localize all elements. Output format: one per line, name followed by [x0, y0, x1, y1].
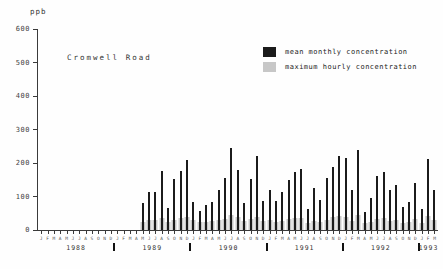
month-tick — [257, 230, 258, 234]
month-tick — [415, 230, 416, 234]
bar-mean-monthly — [402, 207, 404, 230]
bar-mean-monthly — [421, 209, 423, 230]
month-tick — [168, 230, 169, 234]
bar-mean-monthly — [205, 205, 207, 230]
bar-mean-monthly — [338, 156, 340, 230]
y-axis-tick — [33, 129, 38, 130]
month-tick — [174, 230, 175, 234]
month-tick — [244, 230, 245, 234]
month-tick — [352, 230, 353, 234]
month-tick — [251, 230, 252, 234]
month-tick — [270, 230, 271, 234]
bar-mean-monthly — [357, 150, 359, 230]
chart-figure: ppb Cromwell Road mean monthly concentra… — [0, 0, 443, 269]
month-tick — [390, 230, 391, 234]
month-tick — [48, 230, 49, 234]
bar-mean-monthly — [319, 200, 321, 230]
bar-mean-monthly — [307, 209, 309, 230]
month-tick — [181, 230, 182, 234]
month-tick — [403, 230, 404, 234]
bar-mean-monthly — [199, 211, 201, 230]
bar-mean-monthly — [313, 188, 315, 230]
month-tick — [206, 230, 207, 234]
y-axis-tick-label: 200 — [4, 159, 30, 167]
month-tick — [193, 230, 194, 234]
month-tick — [409, 230, 410, 234]
year-separator-mark — [342, 243, 344, 251]
month-tick — [219, 230, 220, 234]
month-tick — [238, 230, 239, 234]
month-tick — [143, 230, 144, 234]
month-letter: M — [431, 236, 437, 242]
month-tick — [327, 230, 328, 234]
bar-mean-monthly — [395, 185, 397, 230]
bar-mean-monthly — [218, 190, 220, 230]
month-tick — [149, 230, 150, 234]
bar-mean-monthly — [345, 158, 347, 230]
month-tick — [301, 230, 302, 234]
month-tick — [231, 230, 232, 234]
bar-mean-monthly — [389, 190, 391, 230]
month-tick — [422, 230, 423, 234]
month-tick — [282, 230, 283, 234]
month-tick — [60, 230, 61, 234]
bar-mean-monthly — [237, 170, 239, 230]
y-axis-tick — [33, 163, 38, 164]
bar-mean-monthly — [167, 208, 169, 230]
bar-mean-monthly — [281, 192, 283, 230]
bars-container: JFMAMJJASONDJFMAMJJASONDJFMAMJJASONDJFMA… — [38, 29, 438, 230]
year-label: 1993 — [419, 244, 439, 252]
month-tick — [384, 230, 385, 234]
bar-mean-monthly — [161, 171, 163, 230]
y-axis-tick-label: 300 — [4, 126, 30, 134]
month-tick — [41, 230, 42, 234]
bar-mean-monthly — [326, 178, 328, 230]
month-tick — [346, 230, 347, 234]
bar-mean-monthly — [364, 212, 366, 230]
month-tick — [98, 230, 99, 234]
y-axis-tick — [33, 196, 38, 197]
y-axis-tick-label: 400 — [4, 92, 30, 100]
bar-mean-monthly — [376, 176, 378, 230]
month-tick — [371, 230, 372, 234]
bar-mean-monthly — [250, 179, 252, 230]
y-axis-tick-label: 0 — [4, 226, 30, 234]
month-tick — [54, 230, 55, 234]
y-axis-tick — [33, 29, 38, 30]
year-label: 1989 — [142, 244, 162, 252]
month-tick — [162, 230, 163, 234]
bar-mean-monthly — [383, 172, 385, 230]
bar-mean-monthly — [224, 178, 226, 230]
year-separator-mark — [113, 243, 115, 251]
month-tick — [73, 230, 74, 234]
month-tick — [320, 230, 321, 234]
bar-mean-monthly — [142, 203, 144, 230]
bar-mean-monthly — [243, 203, 245, 230]
bar-mean-monthly — [300, 169, 302, 230]
bar-mean-monthly — [192, 202, 194, 230]
bar-mean-monthly — [275, 201, 277, 230]
y-axis-tick-label: 600 — [4, 25, 30, 33]
month-tick — [67, 230, 68, 234]
month-tick — [289, 230, 290, 234]
year-label: 1991 — [295, 244, 315, 252]
year-label: 1990 — [219, 244, 239, 252]
month-slot: M — [431, 29, 437, 230]
month-tick — [295, 230, 296, 234]
y-axis-unit-label: ppb — [30, 7, 47, 16]
y-axis-tick-label: 100 — [4, 193, 30, 201]
bar-mean-monthly — [186, 160, 188, 230]
month-tick — [79, 230, 80, 234]
month-tick — [263, 230, 264, 234]
month-tick — [212, 230, 213, 234]
month-tick — [365, 230, 366, 234]
month-tick — [200, 230, 201, 234]
month-tick — [428, 230, 429, 234]
month-tick — [105, 230, 106, 234]
bar-mean-monthly — [433, 190, 435, 230]
bar-mean-monthly — [288, 180, 290, 230]
bar-mean-monthly — [294, 172, 296, 230]
month-tick — [377, 230, 378, 234]
y-axis-tick-label: 500 — [4, 59, 30, 67]
bar-mean-monthly — [154, 192, 156, 230]
